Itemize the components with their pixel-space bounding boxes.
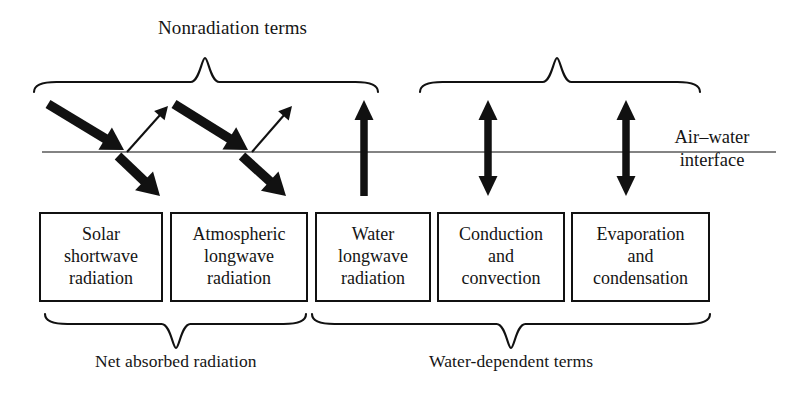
group-label-water-dependent-terms: Water-dependent terms	[429, 352, 593, 370]
term-box-label: Conduction and convection	[456, 224, 546, 290]
term-box-label: Solar shortwave radiation	[61, 224, 141, 290]
term-box-atmospheric-longwave-radiation: Atmospheric longwave radiation	[170, 212, 308, 302]
arrow-atmospheric-transmitted	[242, 156, 286, 196]
arrow-atmospheric-incoming	[174, 104, 248, 150]
diagram-canvas: Radiation termsNonradiation terms Air–wa…	[0, 0, 798, 396]
term-box-solar-shortwave-radiation: Solar shortwave radiation	[39, 212, 163, 302]
group-label-net-absorbed-radiation: Net absorbed radiation	[95, 352, 257, 370]
flux-arrow-group	[48, 100, 636, 196]
group-label-nonradiation-terms: Nonradiation terms	[158, 18, 307, 38]
term-box-evaporation-and-condensation: Evaporation and condensation	[571, 212, 710, 302]
term-box-label: Water longwave radiation	[335, 224, 411, 290]
top-brace-group	[34, 58, 700, 92]
brace-net-absorbed-radiation	[45, 314, 306, 348]
air-water-interface-label: Air–water interface	[675, 126, 750, 171]
brace-radiation-terms	[34, 58, 378, 92]
brace-water-dependent-terms	[312, 314, 710, 348]
term-box-label: Atmospheric longwave radiation	[190, 224, 289, 290]
term-box-label: Evaporation and condensation	[590, 224, 691, 290]
arrow-conduction-convection-exchange	[479, 100, 498, 196]
arrow-evaporation-condensation-exchange	[617, 100, 636, 196]
arrow-water-longwave-emission	[355, 100, 374, 196]
bottom-brace-group	[45, 314, 710, 348]
arrow-atmospheric-reflected	[252, 106, 292, 152]
brace-nonradiation-terms	[420, 58, 700, 92]
arrow-solar-reflected	[127, 106, 168, 152]
arrow-solar-transmitted	[118, 156, 160, 196]
term-box-conduction-and-convection: Conduction and convection	[437, 212, 565, 302]
arrow-solar-incoming	[48, 104, 124, 150]
diagram-vector-layer	[0, 0, 798, 396]
term-box-water-longwave-radiation: Water longwave radiation	[315, 212, 431, 302]
